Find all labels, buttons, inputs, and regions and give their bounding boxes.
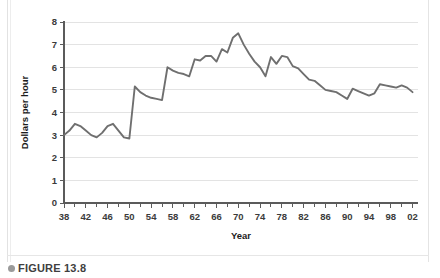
page-rule-left-inner [10, 0, 11, 262]
line-chart: 012345678 384246505458626670747882869094… [14, 4, 426, 248]
x-tick-label: 94 [364, 211, 375, 222]
x-tick-label: 02 [407, 211, 418, 222]
y-tick-label: 8 [52, 16, 57, 27]
y-tick-label: 6 [52, 62, 57, 73]
x-tick-label: 78 [277, 211, 288, 222]
x-tick-label: 62 [189, 211, 200, 222]
y-tick-label: 4 [52, 107, 58, 118]
x-tick-label: 54 [146, 211, 157, 222]
x-tick-label: 86 [320, 211, 331, 222]
x-tick-label: 82 [298, 211, 309, 222]
page-rule-right [428, 0, 429, 262]
y-tick-label: 0 [52, 197, 57, 208]
x-tick-label: 42 [80, 211, 91, 222]
y-tick-label: 3 [52, 130, 57, 141]
x-tick-label: 90 [342, 211, 353, 222]
bullet-icon [8, 265, 15, 272]
figure-caption-label: FIGURE 13.8 [18, 262, 86, 274]
page-rule-left [7, 0, 8, 262]
figure-container: 012345678 384246505458626670747882869094… [0, 0, 440, 278]
y-tick-label: 7 [52, 39, 57, 50]
axes [64, 21, 418, 203]
chart-svg: 012345678 384246505458626670747882869094… [14, 4, 426, 248]
y-tick-label: 5 [52, 84, 58, 95]
panel-bottom-rule [7, 255, 429, 256]
y-axis-title: Dollars per hour [19, 76, 30, 150]
x-axis-title: Year [231, 230, 251, 241]
x-tick-labels: 3842465054586266707478828690949802 [59, 211, 418, 222]
figure-caption: FIGURE 13.8 [8, 262, 86, 274]
x-tick-label: 38 [59, 211, 70, 222]
x-tick-label: 58 [168, 211, 179, 222]
x-tick-label: 66 [211, 211, 222, 222]
x-tick-label: 46 [102, 211, 113, 222]
x-tick-label: 98 [385, 211, 396, 222]
data-line [64, 33, 413, 138]
y-tick-labels: 012345678 [52, 16, 58, 208]
x-tick-label: 70 [233, 211, 244, 222]
gridlines [64, 22, 418, 180]
x-tick-label: 74 [255, 211, 266, 222]
y-tick-label: 2 [52, 152, 57, 163]
x-tick-label: 50 [124, 211, 135, 222]
y-tick-label: 1 [52, 175, 58, 186]
data-series [64, 33, 413, 138]
